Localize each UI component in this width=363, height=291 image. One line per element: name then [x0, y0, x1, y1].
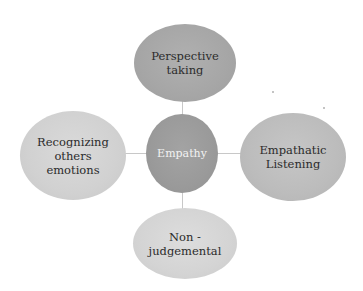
- node-label: Perspective taking: [151, 49, 219, 77]
- scan-artifact: [323, 107, 325, 109]
- node-label: Recognizing others emotions: [37, 135, 109, 177]
- center-label: Empathy: [157, 147, 207, 161]
- connector-right: [217, 153, 242, 154]
- node-recognizing-others-emotions: Recognizing others emotions: [20, 111, 126, 200]
- node-perspective-taking: Perspective taking: [134, 24, 236, 102]
- node-non-judgemental: Non - judgemental: [133, 208, 237, 279]
- empathy-diagram: Perspective taking Recognizing others em…: [0, 0, 363, 291]
- node-label: Non - judgemental: [149, 230, 222, 258]
- connector-left: [124, 153, 148, 154]
- node-empathy-center: Empathy: [146, 114, 218, 193]
- node-label: Empathatic Listening: [259, 143, 326, 171]
- node-empathatic-listening: Empathatic Listening: [240, 113, 346, 201]
- scan-artifact: [272, 91, 274, 93]
